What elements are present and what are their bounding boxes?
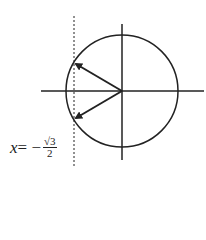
label-equals: = − [18, 138, 41, 158]
equation-label: x = − √3 2 [10, 136, 57, 159]
fraction: √3 2 [43, 136, 57, 159]
fraction-denominator: 2 [47, 148, 53, 159]
vector-lower [76, 91, 122, 118]
label-variable: x [10, 138, 18, 158]
vector-upper [76, 64, 122, 91]
